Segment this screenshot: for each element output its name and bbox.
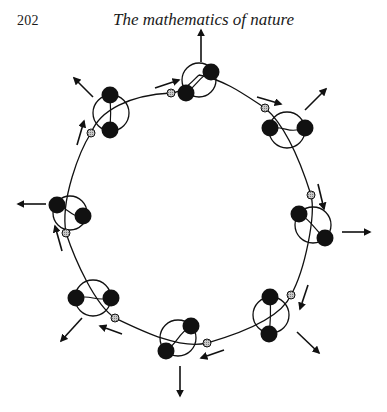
dipole-units — [18, 30, 370, 396]
charge-ball — [68, 290, 85, 307]
charge-ball — [75, 208, 92, 225]
dipole-unit-left — [18, 196, 92, 251]
tangential-arrow-icon — [155, 80, 179, 88]
dipole-ring-figure — [0, 0, 387, 412]
charge-ball — [291, 206, 308, 223]
tangential-arrow-icon — [100, 326, 122, 334]
charge-ball — [261, 326, 278, 343]
dipole-unit-upper-left — [74, 78, 129, 145]
dipole-unit-right — [291, 184, 371, 247]
charge-ball — [262, 120, 279, 137]
connecting-chain — [65, 75, 312, 344]
charge-ball — [49, 197, 66, 214]
dipole-unit-top — [155, 30, 220, 102]
charge-ball — [103, 290, 120, 307]
charge-ball — [317, 230, 334, 247]
junction-node — [87, 129, 95, 137]
dipole-unit-upper-right — [257, 89, 326, 148]
junction-node — [287, 291, 295, 299]
tangential-arrow-icon — [318, 184, 324, 209]
charge-ball — [178, 85, 195, 102]
charge-ball — [158, 343, 175, 360]
charge-ball — [297, 120, 314, 137]
tangential-arrow-icon — [77, 121, 84, 145]
tangential-arrow-icon — [201, 350, 224, 358]
junction-node — [203, 339, 211, 347]
charge-ball — [183, 318, 200, 335]
radial-arrow-icon — [305, 89, 326, 110]
charge-ball — [262, 289, 279, 306]
tangential-arrow-icon — [300, 285, 308, 309]
junction-node — [62, 229, 70, 237]
dipole-unit-bottom — [158, 318, 225, 397]
dipole-unit-lower-right — [253, 285, 319, 353]
radial-arrow-icon — [297, 332, 319, 353]
charge-ball — [203, 64, 220, 81]
junction-node — [261, 104, 269, 112]
junction-node — [167, 89, 175, 97]
tangential-arrow-icon — [257, 97, 281, 104]
radial-arrow-icon — [74, 78, 93, 97]
junction-node — [307, 191, 315, 199]
charge-ball — [102, 122, 119, 139]
junction-node — [111, 314, 119, 322]
charge-ball — [102, 87, 119, 104]
radial-arrow-icon — [61, 318, 82, 341]
tangential-arrow-icon — [55, 226, 62, 251]
